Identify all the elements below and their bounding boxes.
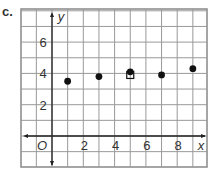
y-tick-label: 2 <box>39 98 46 113</box>
y-tick-label: 6 <box>39 35 46 50</box>
x-tick-label: 8 <box>175 138 182 153</box>
scatter-plot: 2468246Oxy <box>0 0 208 172</box>
data-point <box>64 78 71 85</box>
x-tick-label: 6 <box>143 138 150 153</box>
data-point <box>158 72 165 79</box>
origin-label: O <box>37 138 47 153</box>
x-tick-label: 2 <box>81 138 88 153</box>
data-point <box>96 73 103 80</box>
y-tick-label: 4 <box>39 66 46 81</box>
x-axis-label: x <box>197 138 205 153</box>
x-tick-label: 4 <box>112 138 119 153</box>
data-point <box>189 65 196 72</box>
